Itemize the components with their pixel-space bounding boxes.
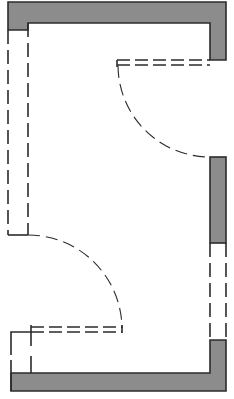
lower-door-swing-arc	[28, 235, 122, 328]
floor-plan	[0, 0, 234, 399]
upper-door-swing-arc	[118, 66, 210, 157]
top-wall	[8, 2, 226, 60]
bottom-left-jamb	[11, 332, 31, 355]
bottom-wall	[11, 340, 226, 391]
right-wall-middle	[210, 157, 226, 243]
